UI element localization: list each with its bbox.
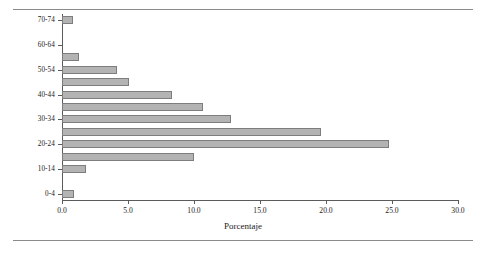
x-tick-5.0 xyxy=(128,200,129,204)
y-tick-20-24 xyxy=(58,144,62,145)
bar-15-19 xyxy=(62,153,194,161)
y-tick-30-34 xyxy=(58,119,62,120)
y-tick-label-60-64: 60-64 xyxy=(38,41,55,49)
bar-40-44 xyxy=(62,91,172,99)
bar-10-14 xyxy=(62,165,86,173)
bar-35-39 xyxy=(62,103,203,111)
x-tick-10.0 xyxy=(194,200,195,204)
x-tick-label-5.0: 5.0 xyxy=(123,206,133,215)
y-tick-label-40-44: 40-44 xyxy=(38,91,55,99)
x-tick-label-25.0: 25.0 xyxy=(385,206,398,215)
y-tick-0-4 xyxy=(58,194,62,195)
x-axis-title: Porcentaje xyxy=(0,221,486,231)
bar-25-29 xyxy=(62,128,321,136)
y-tick-label-10-14: 10-14 xyxy=(38,165,55,173)
y-tick-label-30-34: 30-34 xyxy=(38,115,55,123)
y-tick-70-74 xyxy=(58,20,62,21)
figure-canvas: 70-7460-6450-5440-4430-3420-2410-140-4 G… xyxy=(0,0,486,260)
figure-top-rule xyxy=(13,9,473,10)
plot-area: 70-7460-6450-5440-4430-3420-2410-140-4 xyxy=(62,14,458,200)
y-tick-10-14 xyxy=(58,169,62,170)
bar-70-74 xyxy=(62,16,73,24)
x-tick-15.0 xyxy=(260,200,261,204)
x-tick-30.0 xyxy=(458,200,459,204)
y-tick-label-70-74: 70-74 xyxy=(38,16,55,24)
bar-0-4 xyxy=(62,190,74,198)
bar-45-49 xyxy=(62,78,129,86)
x-tick-label-20.0: 20.0 xyxy=(319,206,332,215)
bar-50-54 xyxy=(62,66,117,74)
y-tick-label-50-54: 50-54 xyxy=(38,66,55,74)
y-tick-label-20-24: 20-24 xyxy=(38,140,55,148)
figure-bottom-rule xyxy=(13,240,473,241)
y-tick-50-54 xyxy=(58,70,62,71)
x-tick-0.0 xyxy=(62,200,63,204)
y-tick-60-64 xyxy=(58,45,62,46)
x-tick-20.0 xyxy=(326,200,327,204)
x-tick-25.0 xyxy=(392,200,393,204)
bar-30-34 xyxy=(62,115,231,123)
x-tick-label-10.0: 10.0 xyxy=(187,206,200,215)
x-tick-label-0.0: 0.0 xyxy=(57,206,67,215)
bar-55-59 xyxy=(62,53,79,61)
x-tick-label-30.0: 30.0 xyxy=(451,206,464,215)
x-tick-label-15.0: 15.0 xyxy=(253,206,266,215)
bar-20-24 xyxy=(62,140,389,148)
y-tick-label-0-4: 0-4 xyxy=(45,190,55,198)
y-tick-40-44 xyxy=(58,95,62,96)
